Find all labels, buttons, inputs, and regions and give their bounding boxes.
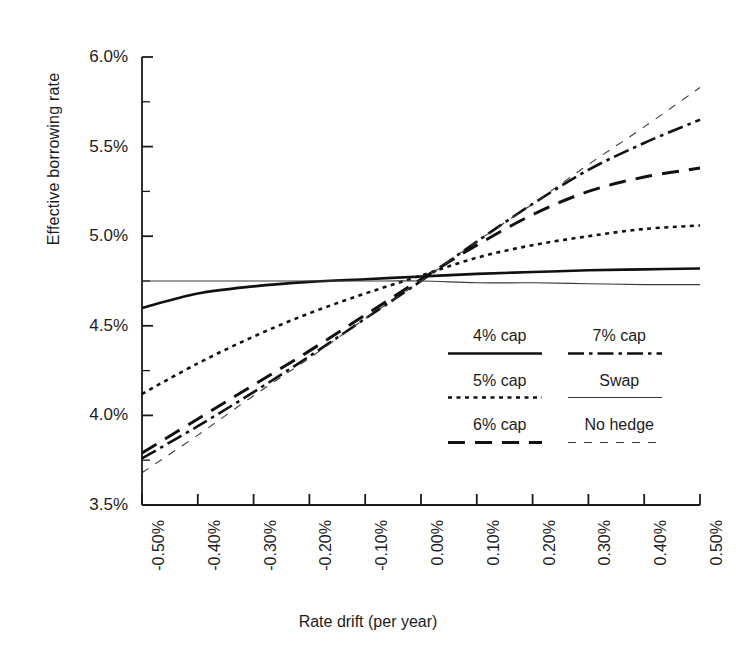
- legend-line-sample: [447, 393, 553, 402]
- legend-line-sample: [567, 393, 673, 402]
- legend-line-sample: [447, 349, 553, 358]
- x-axis-tick-label: -0.30%: [262, 520, 280, 571]
- x-axis-tick-label: 0.10%: [485, 520, 503, 565]
- x-axis-tick-label: 0.50%: [708, 520, 726, 565]
- x-axis-tick-label: -0.50%: [150, 520, 168, 571]
- legend-label: No hedge: [585, 416, 654, 434]
- legend-label: Swap: [599, 372, 639, 390]
- legend-item: No hedge: [567, 416, 673, 459]
- series-line: [142, 268, 700, 307]
- legend-label: 5% cap: [473, 372, 526, 390]
- legend-label: 7% cap: [593, 327, 646, 345]
- x-axis-tick-label: -0.40%: [206, 520, 224, 571]
- x-axis-tick-label: 0.20%: [541, 520, 559, 565]
- x-axis-tick-label: 0.00%: [429, 520, 447, 565]
- x-axis-title: Rate drift (per year): [0, 613, 736, 631]
- legend-line-sample: [567, 349, 673, 358]
- legend-item: 7% cap: [567, 327, 673, 370]
- x-axis-tick-labels: -0.50%-0.40%-0.30%-0.20%-0.10%0.00%0.10%…: [0, 512, 736, 612]
- legend-line-sample: [447, 438, 553, 447]
- legend-label: 4% cap: [473, 327, 526, 345]
- legend-line-sample: [567, 438, 673, 447]
- legend-item: 5% cap: [447, 372, 553, 415]
- legend-label: 6% cap: [473, 416, 526, 434]
- chart-figure: Effective borrowing rate 6.0%5.5%5.0%4.5…: [0, 0, 736, 652]
- x-axis-tick-label: 0.30%: [596, 520, 614, 565]
- legend-item: 4% cap: [447, 327, 553, 370]
- legend-item: 6% cap: [447, 416, 553, 459]
- x-axis-tick-label: -0.10%: [373, 520, 391, 571]
- legend-item: Swap: [567, 372, 673, 415]
- chart-legend: 4% cap 7% cap 5% cap Swap 6% cap No hedg…: [447, 327, 672, 459]
- x-axis-tick-label: 0.40%: [652, 520, 670, 565]
- x-axis-tick-label: -0.20%: [317, 520, 335, 571]
